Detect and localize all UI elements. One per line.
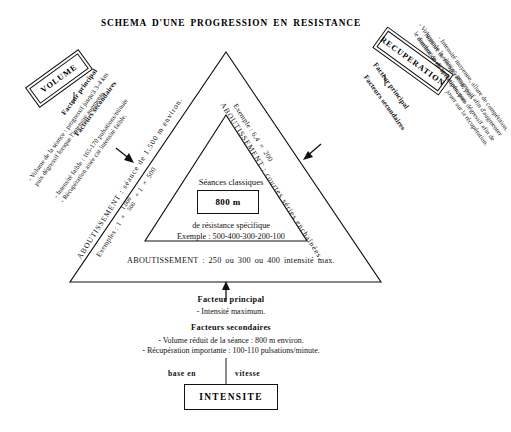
- inner-heading: Séances classiques: [0, 177, 462, 187]
- distance-box-label: 800 m: [215, 197, 240, 207]
- intensity-primary-heading: Facteur principal: [0, 295, 462, 304]
- inner-subtitle: de résistance spécifique: [0, 221, 462, 230]
- right-outcome-multiply: ×: [257, 142, 266, 150]
- left-outcome-multiply-1: ×: [119, 213, 128, 221]
- base-left-label: base en: [168, 369, 196, 378]
- intensity-secondary-heading: Facteurs secondaires: [0, 323, 462, 332]
- left-outcome-example-suffix: + 1: [133, 186, 145, 199]
- page-title: SCHEMA D'UNE PROGRESSION EN RESISTANCE: [0, 18, 462, 28]
- intensity-secondary-line-1: - Volume réduit de la séance : 800 m env…: [0, 336, 462, 345]
- bottom-outcome-text: ABOUTISSEMENT : 250 ou 300 ou 400 intens…: [0, 256, 462, 265]
- intensity-secondary-line-2: - Récupération importante : 100-110 puls…: [0, 346, 462, 355]
- base-right-label: vitesse: [235, 369, 260, 378]
- inner-example: Exemple : 500-400-300-200-100: [0, 232, 462, 241]
- right-arrow-icon: [303, 144, 321, 160]
- left-outcome-fraction: 1.000 500: [120, 196, 138, 215]
- intensity-primary-line: - Intensité maximum.: [0, 307, 462, 316]
- intensite-box-label: INTENSITE: [199, 392, 263, 402]
- intensite-label-box: INTENSITE: [184, 384, 278, 410]
- volume-box-label: VOLUME: [39, 62, 79, 94]
- distance-box: 800 m: [197, 190, 259, 214]
